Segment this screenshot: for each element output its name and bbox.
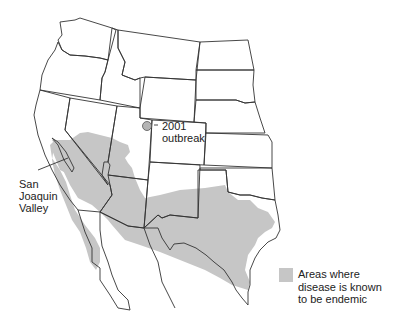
legend-swatch <box>279 268 293 282</box>
washington-border <box>58 18 116 60</box>
outbreak-word: outbreak <box>162 132 205 144</box>
montana-border <box>118 30 200 80</box>
valley-line-1: San <box>19 178 58 190</box>
valley-line-2: Joaquin <box>19 190 58 202</box>
san-joaquin-label: San Joaquin Valley <box>19 178 58 214</box>
south-dakota-border <box>196 70 255 103</box>
endemic-region <box>50 132 275 290</box>
outbreak-label: 2001 outbreak <box>162 120 205 144</box>
legend-text: Areas where disease is known to be endem… <box>298 268 393 306</box>
wyoming-border <box>140 77 196 122</box>
oregon-border <box>40 42 108 100</box>
kansas-border <box>204 133 272 168</box>
north-dakota-border <box>196 40 254 70</box>
outbreak-year: 2001 <box>162 120 205 132</box>
idaho-border <box>100 28 140 108</box>
outbreak-marker <box>143 122 152 131</box>
valley-line-3: Valley <box>19 202 58 214</box>
